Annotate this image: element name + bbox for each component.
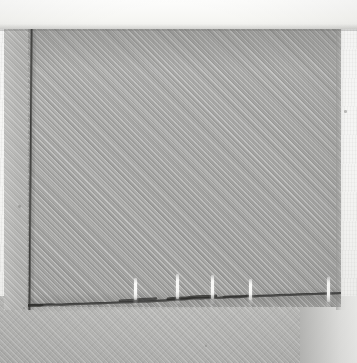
top-band-shadow [0, 24, 357, 31]
cloth-right-edge-falloff [336, 29, 346, 310]
fabric-photograph [0, 0, 357, 363]
main-cloth-region [28, 29, 341, 307]
cloth-right-shadow [281, 29, 341, 307]
